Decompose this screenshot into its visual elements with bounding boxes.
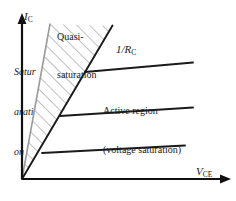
- saturation-label-line-1: Satur: [14, 65, 36, 78]
- active-region-label-line-1: Active region: [103, 104, 181, 117]
- x-axis-label: VCE: [196, 166, 212, 178]
- active-region-label-line-2: (voltage saturation): [103, 143, 181, 156]
- saturation-label-line-3: on: [14, 145, 36, 158]
- x-axis-label-subscript: CE: [203, 170, 213, 179]
- saturation-region-label: Satur arati on: [14, 39, 36, 184]
- x-axis-label-symbol: V: [196, 165, 203, 177]
- load-line-slope-subscript: C: [131, 48, 136, 57]
- output-curve-high: [85, 63, 193, 73]
- quasi-saturation-region-label: Quasi- saturation: [57, 5, 96, 107]
- transistor-iv-characteristic-figure: IC VCE 1/RC Satur arati on Quasi- satura…: [0, 0, 236, 201]
- quasi-saturation-label-line-1: Quasi-: [57, 31, 96, 44]
- load-line-slope-text: 1/R: [116, 43, 131, 55]
- y-axis-label: IC: [24, 11, 33, 23]
- quasi-saturation-label-line-2: saturation: [57, 69, 96, 82]
- y-axis-label-subscript: C: [28, 15, 33, 24]
- load-line-slope-label: 1/RC: [116, 44, 136, 56]
- active-region-label: Active region (voltage saturation): [103, 78, 181, 182]
- saturation-label-line-2: arati: [14, 105, 36, 118]
